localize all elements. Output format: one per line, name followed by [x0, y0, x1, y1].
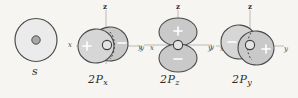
orbital-label-2px: 2Px	[88, 74, 108, 87]
nucleus-2py	[245, 40, 254, 49]
orbital-label-2pz-main: 2P	[160, 73, 175, 86]
orbital-label-2py-main: 2P	[232, 73, 247, 86]
orbital-label-2pz-sub: z	[175, 78, 180, 87]
nucleus-2pz	[173, 40, 182, 49]
s-orbital-drawing	[8, 16, 68, 66]
2py-orbital-drawing	[206, 2, 294, 72]
orbital-label-2py: 2Py	[232, 74, 252, 87]
orbital-label-2px-sub: x	[103, 78, 108, 87]
nucleus-2px	[102, 40, 111, 49]
orbital-diagram-2py: z y x y 2Py	[206, 2, 294, 96]
orbital-label-s: s	[32, 66, 38, 77]
nucleus-dot	[32, 36, 40, 44]
orbital-label-2py-sub: y	[247, 78, 252, 87]
orbital-label-2px-main: 2P	[88, 73, 103, 86]
orbital-label-2pz: 2Pz	[160, 74, 180, 87]
orbital-diagram-s: s	[8, 16, 68, 78]
